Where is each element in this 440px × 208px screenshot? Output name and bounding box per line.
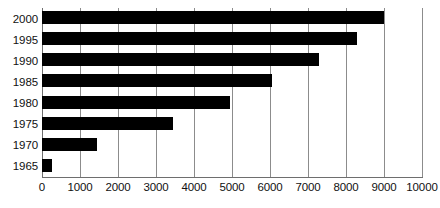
y-axis-tick-labels: 20001995199019851980197519701965 bbox=[0, 8, 38, 177]
x-tick-label-2000: 2000 bbox=[105, 181, 130, 193]
bars bbox=[42, 8, 422, 177]
bar-1965 bbox=[42, 159, 52, 172]
bar-2000 bbox=[42, 11, 384, 24]
bar-chart: 20001995199019851980197519701965 0100020… bbox=[0, 0, 440, 208]
bar-1980 bbox=[42, 96, 230, 109]
x-tick-label-3000: 3000 bbox=[143, 181, 168, 193]
y-tick-label-1975: 1975 bbox=[0, 118, 38, 130]
y-tick-label-1980: 1980 bbox=[0, 97, 38, 109]
bar-1970 bbox=[42, 138, 97, 151]
y-tick-label-1965: 1965 bbox=[0, 160, 38, 172]
y-tick-label-1985: 1985 bbox=[0, 76, 38, 88]
x-axis-tick-labels: 0100020003000400050006000700080009000100… bbox=[0, 181, 440, 201]
bar-1990 bbox=[42, 53, 319, 66]
plot-area bbox=[42, 8, 422, 177]
x-axis-line bbox=[42, 177, 423, 178]
x-tick-label-0: 0 bbox=[39, 181, 45, 193]
x-tick-label-7000: 7000 bbox=[295, 181, 320, 193]
x-tick-label-10000: 10000 bbox=[406, 181, 437, 193]
x-tick-label-9000: 9000 bbox=[371, 181, 396, 193]
y-tick-label-1990: 1990 bbox=[0, 55, 38, 67]
x-tick-label-6000: 6000 bbox=[257, 181, 282, 193]
gridline-10000 bbox=[422, 8, 423, 177]
bar-1985 bbox=[42, 74, 272, 87]
x-tick-label-5000: 5000 bbox=[219, 181, 244, 193]
bar-1975 bbox=[42, 117, 173, 130]
x-tick-label-8000: 8000 bbox=[333, 181, 358, 193]
x-tick-label-4000: 4000 bbox=[181, 181, 206, 193]
x-tick-label-1000: 1000 bbox=[67, 181, 92, 193]
y-tick-label-2000: 2000 bbox=[0, 13, 38, 25]
y-tick-label-1970: 1970 bbox=[0, 139, 38, 151]
y-tick-label-1995: 1995 bbox=[0, 34, 38, 46]
bar-1995 bbox=[42, 32, 357, 45]
